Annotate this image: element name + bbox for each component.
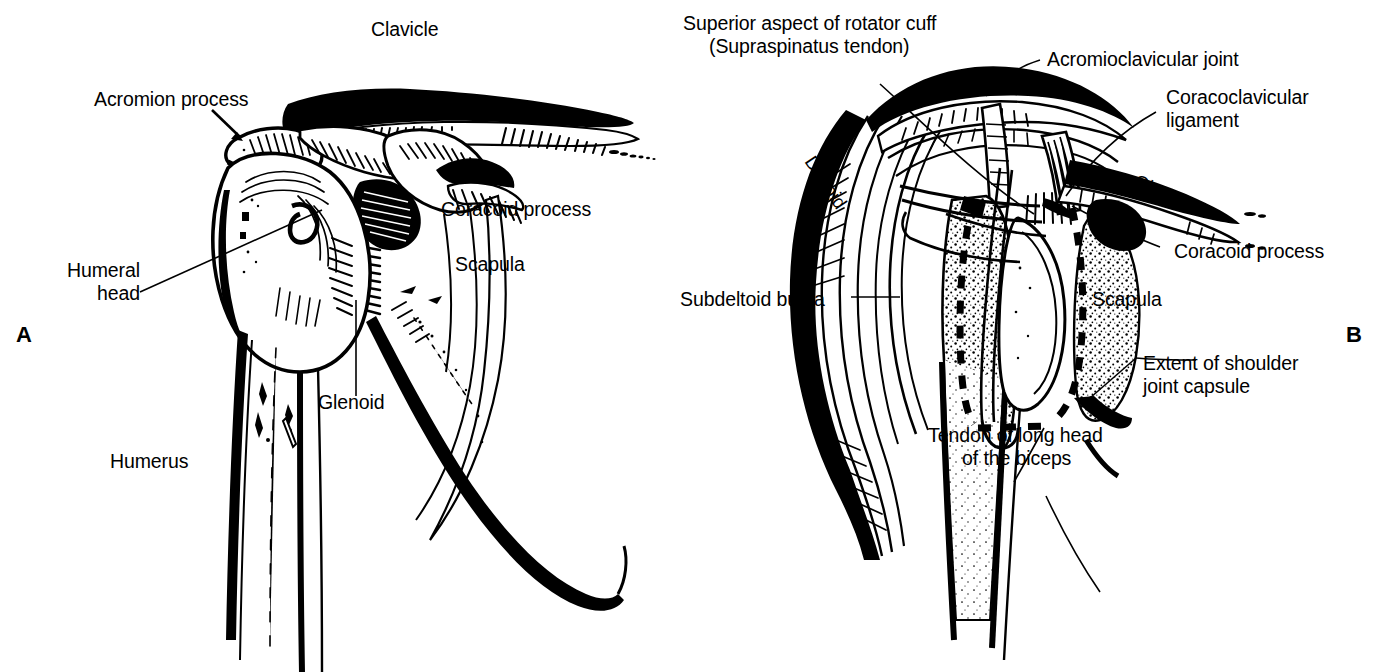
panel-letter-a: A	[16, 322, 32, 348]
figure-root: A Clavicle Acromion process Coracoid pro…	[0, 0, 1387, 672]
label-extent-capsule-line2: joint capsule	[1143, 375, 1250, 398]
label-subdeltoid-bursa: Subdeltoid bursa	[680, 288, 825, 311]
label-acromioclavicular-joint: Acromioclavicular joint	[1047, 48, 1239, 71]
leader-biceps-lower	[1046, 496, 1100, 592]
label-biceps-tendon-line1: Tendon of long head	[928, 424, 1103, 447]
label-clavicle-a: Clavicle	[371, 18, 438, 41]
label-extent-capsule-line1: Extent of shoulder	[1143, 352, 1298, 375]
label-rotator-cuff-line2: (Supraspinatus tendon)	[709, 35, 910, 58]
panel-a-humerus-shaft	[226, 330, 322, 672]
panel-a-humeral-head	[213, 153, 370, 372]
label-acromion-process-a: Acromion process	[94, 88, 248, 111]
label-coracoid-process-b: Coracoid process	[1174, 240, 1324, 263]
label-glenoid-a: Glenoid	[318, 391, 385, 414]
label-humeral-head-a-line2: head	[40, 282, 140, 305]
label-scapula-a: Scapula	[455, 253, 525, 276]
label-scapula-b: Scapula	[1092, 288, 1162, 311]
label-coracoclavicular-line2: ligament	[1166, 109, 1239, 132]
panel-a-acromion-arrow	[212, 110, 243, 141]
label-humerus-a: Humerus	[110, 450, 188, 473]
panel-a-drawing	[140, 89, 656, 672]
label-coracoclavicular-line1: Coracoclavicular	[1166, 86, 1309, 109]
panel-letter-b: B	[1346, 322, 1362, 348]
panel-b-subdeltoid-bursa	[890, 126, 942, 434]
label-coracoid-process-a: Coracoid process	[441, 198, 591, 221]
label-rotator-cuff-line1: Superior aspect of rotator cuff	[683, 12, 936, 35]
label-biceps-tendon-line2: of the biceps	[962, 447, 1071, 470]
label-humeral-head-a-line1: Humeral	[40, 259, 140, 282]
panel-b-glenoid-surface	[999, 218, 1065, 410]
